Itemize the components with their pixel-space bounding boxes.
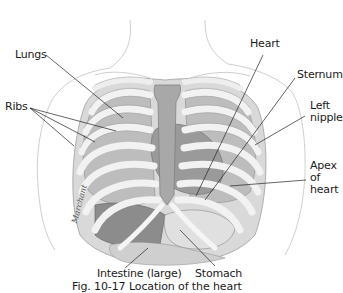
label-sternum: Sternum [297,69,343,81]
label-heart: Heart [250,38,280,50]
label-stomach: Stomach [195,268,242,280]
label-ribs: Ribs [5,101,28,113]
label-intestine-large: Intestine (large) [97,268,182,280]
label-lungs: Lungs [15,49,47,61]
label-left-nipple: Left nipple [310,100,343,124]
figure-caption: Fig. 10-17 Location of the heart [72,280,242,293]
label-apex-of-heart: Apex of heart [310,160,338,196]
